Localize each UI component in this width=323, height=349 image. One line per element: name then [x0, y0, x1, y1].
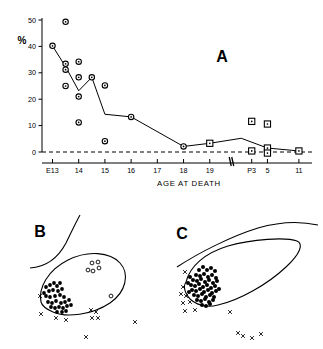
x-tick-label: P3 — [247, 166, 256, 175]
reference-x-mark — [90, 316, 94, 320]
x-axis-title: AGE AT DEATH — [157, 179, 221, 188]
y-tick-label: 0 — [32, 148, 36, 157]
data-point-center — [251, 121, 253, 123]
y-tick-label: 30 — [28, 68, 36, 77]
cell-dot — [56, 289, 60, 293]
x-tick-label: 17 — [153, 166, 161, 175]
cell-dot — [205, 283, 209, 287]
data-point-center — [78, 96, 80, 98]
data-point-center — [52, 45, 54, 47]
data-point-center — [104, 85, 106, 87]
cell-dot — [194, 273, 198, 277]
cell-dot — [50, 301, 54, 305]
reference-x-mark — [183, 270, 187, 274]
axis-break-mark — [232, 157, 234, 166]
cell-dot — [58, 281, 62, 285]
cell-dot — [60, 287, 64, 291]
x-tick-label: E13 — [46, 166, 59, 175]
cell-dot — [192, 293, 196, 297]
cell-dot — [46, 300, 50, 304]
trend-line — [52, 46, 298, 151]
cell-dot — [215, 279, 219, 283]
cell-dot — [211, 298, 215, 302]
surface-outline-c — [177, 222, 318, 267]
x-tick-label: 11 — [295, 166, 302, 175]
cell-dot — [196, 294, 200, 298]
reference-x-mark — [181, 301, 185, 305]
cell-dot — [199, 299, 203, 303]
reference-x-mark — [228, 310, 232, 314]
data-point-center — [78, 61, 80, 63]
cell-open-circle — [91, 269, 95, 273]
reference-x-mark — [84, 335, 88, 339]
cell-dot — [188, 275, 192, 279]
data-point-center — [183, 146, 185, 148]
x-tick-label: 15 — [101, 166, 109, 175]
cell-dot — [63, 300, 67, 304]
cell-dot — [207, 278, 211, 282]
cell-dot — [69, 303, 73, 307]
cell-dot — [213, 269, 217, 273]
cell-dot — [195, 298, 199, 302]
cell-dot — [62, 295, 66, 299]
reference-x-mark — [236, 331, 240, 335]
scientific-figure: 01020304050%E13141516171819P3511AGE AT D… — [0, 0, 323, 349]
cell-dot — [197, 268, 201, 272]
reference-x-mark — [250, 336, 254, 340]
panel-c: C — [176, 222, 318, 340]
reference-x-mark — [179, 292, 183, 296]
cell-dot — [47, 289, 51, 293]
cell-dot — [187, 290, 191, 294]
cell-dot — [208, 302, 212, 306]
cell-dot — [51, 288, 55, 292]
data-point-center — [104, 140, 106, 142]
cell-dot — [58, 293, 62, 297]
reference-x-mark — [241, 334, 245, 338]
cell-dot — [194, 289, 198, 293]
x-tick-label: 16 — [127, 166, 135, 175]
cell-dot — [200, 303, 204, 307]
y-tick-label: 20 — [28, 95, 36, 104]
cell-dot — [191, 278, 195, 282]
axis-break-mark — [229, 157, 231, 166]
data-point-center — [209, 142, 211, 144]
cell-open-circle — [109, 294, 113, 298]
cell-dot — [55, 284, 59, 288]
cell-dot — [44, 285, 48, 289]
reference-x-mark — [64, 318, 68, 322]
x-tick-label: 18 — [180, 166, 188, 175]
reference-x-mark — [54, 316, 58, 320]
reference-x-mark — [259, 332, 263, 336]
y-tick-label: 50 — [28, 16, 36, 25]
cell-dot — [65, 304, 69, 308]
x-tick-label: 19 — [206, 166, 214, 175]
reference-x-mark — [96, 316, 100, 320]
cell-dot — [57, 305, 61, 309]
data-point-center — [267, 123, 269, 125]
cell-dot — [61, 306, 65, 310]
x-tick-label: 14 — [75, 166, 83, 175]
cell-dot — [202, 272, 206, 276]
cell-dot — [53, 306, 57, 310]
cell-dot — [206, 288, 210, 292]
data-point-center — [65, 63, 67, 65]
cell-dot — [64, 309, 68, 313]
y-tick-label: 40 — [28, 42, 36, 51]
data-point-center — [267, 147, 269, 149]
cell-dot — [205, 268, 209, 272]
reference-x-mark — [183, 309, 187, 313]
cell-dot — [203, 297, 207, 301]
cell-dot — [52, 281, 56, 285]
cell-dot — [208, 293, 212, 297]
cell-open-circle — [96, 260, 100, 264]
data-point-center — [267, 152, 269, 154]
data-point-center — [65, 21, 67, 23]
panel-label-a: A — [216, 48, 228, 65]
cell-dot — [193, 284, 197, 288]
cell-open-circle — [86, 268, 90, 272]
cell-dot — [210, 273, 214, 277]
cell-dot — [49, 305, 53, 309]
y-tick-label: 10 — [28, 121, 36, 130]
cell-dot — [209, 266, 213, 270]
figure-container: 01020304050%E13141516171819P3511AGE AT D… — [0, 0, 323, 349]
